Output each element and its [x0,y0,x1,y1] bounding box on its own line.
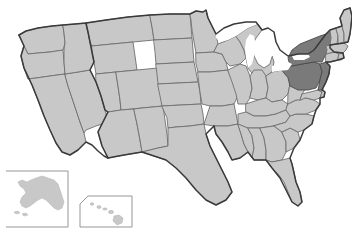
state-AR[interactable] [204,104,238,126]
hawaii-inset-box [80,196,132,227]
hawaii-maui [108,210,113,213]
states-layer [19,8,352,206]
hawaii-inset [80,196,132,227]
state-NE[interactable] [156,62,198,84]
state-HI[interactable] [90,203,123,225]
state-OK[interactable] [162,104,204,128]
state-AK[interactable] [18,176,64,210]
hawaii-kauai [90,203,94,206]
us-states-map [0,0,352,233]
hawaii-molokai [103,208,107,210]
alaska-inset [6,171,68,227]
state-MT[interactable] [86,15,154,46]
state-WY[interactable] [92,42,137,74]
state-MN[interactable] [190,10,218,53]
state-IN[interactable] [250,70,268,100]
hawaii-big-island [113,215,123,225]
map-svg [0,0,352,233]
hawaii-oahu [97,206,101,209]
state-CO[interactable] [116,68,163,110]
state-SD[interactable] [154,38,194,64]
state-KS[interactable] [158,82,201,106]
state-ND[interactable] [150,14,192,40]
alaska-aleutian-islands [14,211,28,216]
